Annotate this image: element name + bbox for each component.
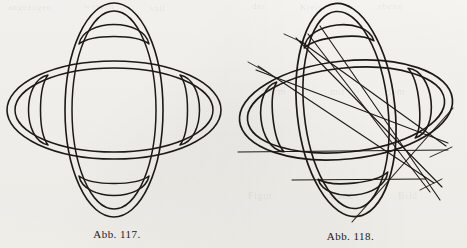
figure-118-drawing (234, 0, 467, 230)
tick-right-lower (430, 147, 452, 157)
lobe-crescent-left (29, 75, 49, 145)
figure-117-caption: Abb. 117. (0, 228, 234, 240)
rosette-117 (7, 3, 221, 217)
rosette-118 (234, 0, 464, 228)
horizontal-lower (292, 179, 426, 180)
figure-118-caption: Abb. 118. (234, 230, 467, 242)
outer-vertical-ellipse (65, 3, 163, 217)
figure-117-drawing (0, 0, 234, 228)
diagonal-steep-left (308, 34, 430, 192)
lobe-crescent-top (79, 25, 149, 45)
outer-horizontal-ellipse (7, 61, 221, 159)
lobe-crescent-bottom (79, 176, 149, 196)
chord-upper-left-to-right (300, 41, 446, 146)
tick-left-middle (248, 62, 270, 74)
figure-abb-117 (0, 0, 234, 228)
long-diagonal-top-to-bottom (320, 26, 440, 200)
figure-abb-118 (234, 0, 467, 230)
lobe-crescent-right (180, 75, 200, 145)
diagonal-right-to-lower-left (352, 108, 453, 222)
construction-lines-118 (238, 26, 453, 222)
scanned-page: angezogenwerdensollderKreisebeneFormmitd… (0, 0, 467, 248)
inner-vertical-ellipse (294, 7, 398, 213)
